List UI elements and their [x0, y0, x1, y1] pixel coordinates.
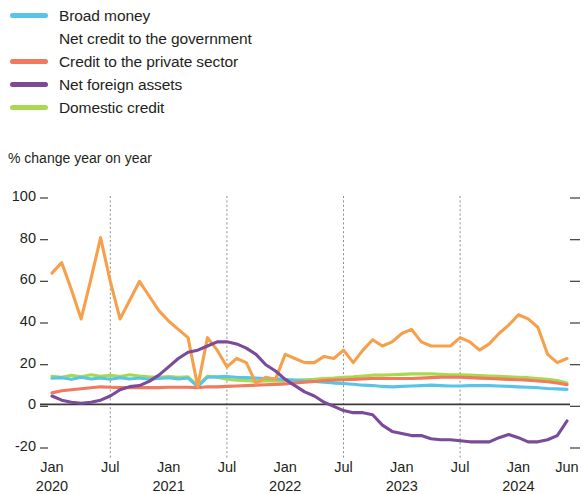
- chart-plot-area: 100806040200-20 Jan2020JulJan2021JulJan2…: [0, 0, 585, 494]
- x-axis-ticks: Jan2020JulJan2021JulJan2022JulJan2023Jul…: [36, 459, 579, 494]
- y-axis-ticks: 100806040200-20: [12, 188, 48, 454]
- x-tick-label-month: Jul: [334, 459, 353, 475]
- data-series-group: [52, 238, 567, 442]
- x-tick-label-year: 2022: [269, 478, 301, 494]
- line-chart: 100806040200-20 Jan2020JulJan2021JulJan2…: [0, 0, 585, 494]
- x-tick-label-month: Jul: [451, 459, 470, 475]
- series-line-net-foreign-assets: [52, 342, 567, 442]
- y-tick-label: 20: [20, 355, 36, 371]
- x-tick-label-year: 2021: [152, 478, 184, 494]
- y-tick-label: 60: [20, 271, 36, 287]
- x-tick-label-month: Jan: [157, 459, 180, 475]
- x-tick-label-year: 2020: [36, 478, 68, 494]
- y-axis-ticks-right: [570, 198, 580, 448]
- y-tick-label: 0: [28, 396, 36, 412]
- x-tick-label-month: Jul: [101, 459, 120, 475]
- chart-page: Broad money Net credit to the government…: [0, 0, 585, 494]
- y-tick-label: -20: [15, 438, 36, 454]
- series-line-net-credit-to-the-government: [52, 238, 567, 387]
- x-tick-label-month: Jan: [40, 459, 63, 475]
- y-tick-label: 40: [20, 313, 36, 329]
- x-tick-label-month: Jun: [555, 459, 578, 475]
- x-tick-label-month: Jan: [274, 459, 297, 475]
- x-tick-label-year: 2023: [386, 478, 418, 494]
- x-tick-label-month: Jul: [218, 459, 237, 475]
- y-tick-label: 80: [20, 230, 36, 246]
- x-tick-label-month: Jan: [390, 459, 413, 475]
- x-tick-label-year: 2024: [502, 478, 534, 494]
- y-tick-label: 100: [12, 188, 36, 204]
- x-tick-label-month: Jan: [507, 459, 530, 475]
- vertical-gridlines: [110, 196, 460, 460]
